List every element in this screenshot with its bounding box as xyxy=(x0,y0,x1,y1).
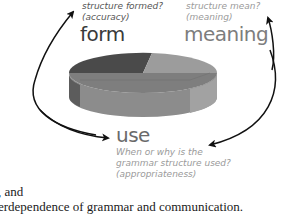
pie-slice-meaning xyxy=(143,53,217,73)
form-question-line2: structure formed? xyxy=(82,1,163,11)
arrow-meaning-to-use-icon xyxy=(210,50,275,145)
meaning-question-line2: structure mean? xyxy=(186,1,260,11)
use-question-line2: grammar structure used? xyxy=(116,158,231,168)
form-label: form xyxy=(80,23,125,45)
use-question-line1: When or why is the xyxy=(116,147,203,157)
arrow-use-to-meaning-icon xyxy=(268,18,274,70)
use-label: use xyxy=(116,124,150,146)
arrow-form-to-use-icon xyxy=(40,110,108,138)
form-question-line3: (accuracy) xyxy=(82,12,130,22)
use-question-line3: (appropriateness) xyxy=(116,169,196,179)
meaning-question-line3: (meaning) xyxy=(186,12,232,22)
body-text-line2: erdependence of grammar and communicatio… xyxy=(0,199,243,214)
body-text-line1: , and xyxy=(0,184,23,199)
meaning-label: meaning xyxy=(184,23,268,45)
pie-slice-form xyxy=(69,53,152,73)
pie-top xyxy=(69,53,217,93)
